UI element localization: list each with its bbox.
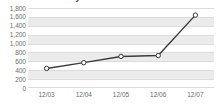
data-point-marker[interactable]: [156, 53, 160, 57]
x-tick-label: 12/04: [76, 91, 92, 99]
chart-title: Revenue History: [2, 0, 81, 3]
y-tick-label: 200: [0, 76, 26, 83]
y-axis: 1,8001,6001,4001,2001,0008006004002000: [0, 8, 26, 88]
data-point-marker[interactable]: [119, 54, 123, 58]
x-tick-label: 12/06: [150, 91, 166, 99]
data-point-marker[interactable]: [193, 13, 197, 17]
revenue-history-chart: Revenue History 1,8001,6001,4001,2001,00…: [0, 0, 220, 106]
x-axis: 12/0312/0412/0512/0612/07: [28, 91, 214, 103]
x-tick-label: 12/03: [38, 91, 54, 99]
y-tick-label: 0: [0, 85, 26, 92]
y-tick-label: 600: [0, 58, 26, 65]
y-tick-label: 1,400: [0, 22, 26, 29]
y-tick-label: 1,600: [0, 13, 26, 20]
plot-area: [28, 8, 214, 88]
x-tick-label: 12/07: [187, 91, 203, 99]
series-line: [47, 15, 196, 68]
data-point-marker[interactable]: [82, 60, 86, 64]
y-tick-label: 400: [0, 67, 26, 74]
y-tick-label: 1,800: [0, 5, 26, 12]
line-series: [28, 8, 214, 88]
y-tick-label: 1,000: [0, 40, 26, 47]
data-point-marker[interactable]: [44, 66, 48, 70]
x-tick-label: 12/05: [113, 91, 129, 99]
y-tick-label: 800: [0, 49, 26, 56]
y-tick-label: 1,200: [0, 31, 26, 38]
